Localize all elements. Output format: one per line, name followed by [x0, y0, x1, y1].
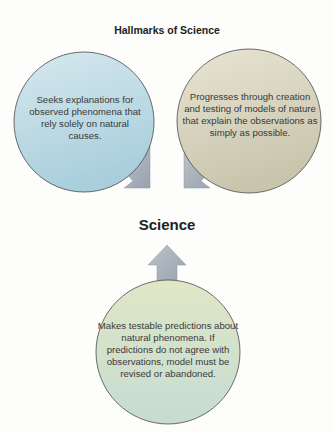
- center-label-science: Science: [0, 216, 334, 233]
- node-text-testable-predictions: Makes testable predictions about natural…: [97, 320, 239, 380]
- node-text-natural-causes: Seeks explanations for observed phenomen…: [24, 94, 146, 142]
- arrow-up-icon: [148, 245, 186, 282]
- node-text-models: Progresses through creation and testing …: [181, 91, 319, 139]
